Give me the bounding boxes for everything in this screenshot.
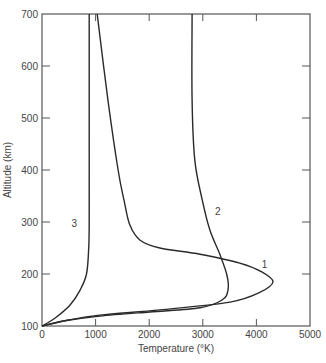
- curve-1: [42, 14, 273, 326]
- plot-frame: [42, 14, 310, 326]
- x-axis-label: Temperature (°K): [138, 343, 214, 354]
- x-tick-label: 1000: [84, 329, 107, 340]
- x-tick-label: 5000: [299, 329, 322, 340]
- y-tick-label: 700: [21, 9, 38, 20]
- x-tick-label: 2000: [138, 329, 161, 340]
- curve-2: [42, 14, 228, 326]
- y-tick-label: 200: [21, 269, 38, 280]
- x-axis-ticks: 010002000300040005000: [39, 14, 321, 340]
- plot-border: [42, 14, 310, 326]
- y-tick-label: 500: [21, 113, 38, 124]
- y-tick-label: 100: [21, 321, 38, 332]
- curve-labels: 123: [71, 206, 267, 270]
- x-tick-label: 3000: [192, 329, 215, 340]
- curve-label-3: 3: [71, 218, 77, 229]
- temperature-altitude-chart: 010002000300040005000 100200300400500600…: [0, 0, 326, 363]
- x-tick-label: 4000: [245, 329, 268, 340]
- x-tick-label: 0: [39, 329, 45, 340]
- y-tick-label: 400: [21, 165, 38, 176]
- y-tick-label: 600: [21, 61, 38, 72]
- y-tick-label: 300: [21, 217, 38, 228]
- chart-canvas: 010002000300040005000 100200300400500600…: [0, 0, 326, 363]
- y-axis-ticks: 100200300400500600700: [21, 9, 310, 332]
- data-series: [42, 14, 273, 326]
- curve-label-2: 2: [215, 206, 221, 217]
- curve-label-1: 1: [262, 259, 268, 270]
- y-axis-label: Altitude (km): [2, 142, 13, 198]
